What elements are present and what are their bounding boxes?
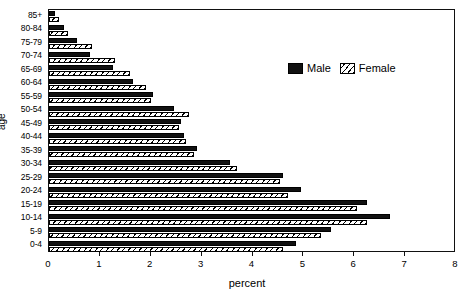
bar-female-70-74 [49, 58, 115, 63]
legend-item-male: Male [288, 62, 331, 74]
y-axis-tick-labels: 85+80-8475-7970-7465-6960-6455-5950-5445… [0, 9, 45, 252]
y-tick-label-80-84: 80-84 [21, 24, 42, 33]
x-axis-title: percent [0, 277, 470, 289]
x-tick-label-2: 2 [147, 258, 152, 269]
bar-female-75-79 [49, 44, 92, 49]
y-tick-label-70-74: 70-74 [21, 51, 42, 60]
x-tick-label-7: 7 [401, 258, 406, 269]
bar-male-65-69 [49, 65, 113, 70]
bar-male-35-39 [49, 146, 197, 151]
y-tick-label-15-19: 15-19 [21, 200, 42, 209]
y-tick-label-45-49: 45-49 [21, 119, 42, 128]
y-tick-label-50-54: 50-54 [21, 105, 42, 114]
bar-female-60-64 [49, 85, 146, 90]
bar-female-85+ [49, 17, 59, 22]
x-tickmark-5 [302, 252, 303, 256]
y-tick-label-65-69: 65-69 [21, 65, 42, 74]
x-tickmark-7 [404, 252, 405, 256]
bar-male-45-49 [49, 119, 181, 124]
bar-male-20-24 [49, 187, 301, 192]
bar-male-15-19 [49, 200, 367, 205]
x-tick-label-4: 4 [249, 258, 254, 269]
legend-item-female: Female [340, 62, 396, 74]
x-tickmark-1 [99, 252, 100, 256]
y-tick-label-55-59: 55-59 [21, 92, 42, 101]
x-tickmark-4 [252, 252, 253, 256]
bar-male-0-4 [49, 241, 296, 246]
bar-male-40-44 [49, 133, 184, 138]
population-pyramid-chart: age 85+80-8475-7970-7465-6960-6455-5950-… [0, 0, 470, 302]
bar-female-45-49 [49, 125, 179, 130]
legend-swatch-male-icon [288, 63, 303, 74]
y-tick-label-75-79: 75-79 [21, 38, 42, 47]
x-tick-label-6: 6 [351, 258, 356, 269]
bar-female-55-59 [49, 98, 151, 103]
legend-label-male: Male [307, 62, 331, 74]
legend-swatch-female-icon [340, 63, 355, 74]
bar-male-30-34 [49, 160, 230, 165]
y-tick-label-30-34: 30-34 [21, 159, 42, 168]
x-tick-label-0: 0 [45, 258, 50, 269]
bar-male-85+ [49, 11, 55, 16]
bar-male-25-29 [49, 173, 283, 178]
bar-female-80-84 [49, 31, 68, 36]
bar-male-75-79 [49, 38, 77, 43]
bar-female-35-39 [49, 152, 194, 157]
legend-label-female: Female [359, 62, 396, 74]
y-tick-label-5-9: 5-9 [30, 227, 42, 236]
bar-female-10-14 [49, 220, 367, 225]
bar-male-50-54 [49, 106, 174, 111]
x-tick-label-3: 3 [198, 258, 203, 269]
bar-female-40-44 [49, 139, 186, 144]
bar-female-30-34 [49, 166, 237, 171]
y-tick-label-20-24: 20-24 [21, 186, 42, 195]
bar-male-55-59 [49, 92, 153, 97]
plot-area [48, 9, 455, 252]
y-tick-label-85+: 85+ [28, 11, 42, 20]
bar-female-20-24 [49, 193, 288, 198]
bar-female-5-9 [49, 233, 321, 238]
bar-female-25-29 [49, 179, 280, 184]
x-tick-label-1: 1 [96, 258, 101, 269]
y-tick-label-60-64: 60-64 [21, 78, 42, 87]
y-tick-label-0-4: 0-4 [30, 240, 42, 249]
bar-female-15-19 [49, 206, 357, 211]
bar-male-5-9 [49, 227, 331, 232]
x-tick-label-8: 8 [452, 258, 457, 269]
y-tick-label-25-29: 25-29 [21, 173, 42, 182]
bar-male-10-14 [49, 214, 390, 219]
bar-male-60-64 [49, 79, 133, 84]
x-tickmark-2 [150, 252, 151, 256]
x-tickmark-3 [201, 252, 202, 256]
y-tick-label-10-14: 10-14 [21, 213, 42, 222]
bar-female-65-69 [49, 71, 130, 76]
bar-male-70-74 [49, 52, 90, 57]
bar-female-0-4 [49, 247, 283, 252]
bar-female-50-54 [49, 112, 189, 117]
chart-legend: Male Female [288, 62, 396, 74]
x-axis-title-text: percent [229, 277, 266, 289]
y-tick-label-40-44: 40-44 [21, 132, 42, 141]
x-tick-label-5: 5 [300, 258, 305, 269]
bar-male-80-84 [49, 25, 64, 30]
x-tickmark-6 [353, 252, 354, 256]
y-tick-label-35-39: 35-39 [21, 146, 42, 155]
